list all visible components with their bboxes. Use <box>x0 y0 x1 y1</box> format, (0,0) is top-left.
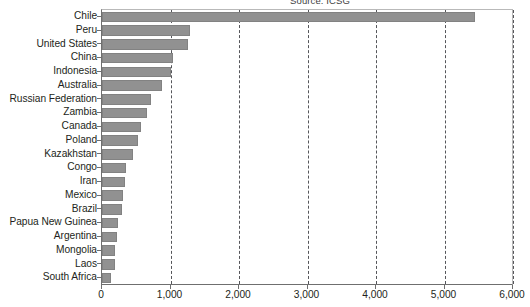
bar-row <box>102 148 512 162</box>
x-axis-tick <box>101 285 102 289</box>
y-axis-label-australia: Australia <box>0 78 97 92</box>
bar-australia <box>102 80 162 91</box>
bar-row <box>102 38 512 52</box>
y-axis-label-russian-federation: Russian Federation <box>0 92 97 106</box>
bar-chile <box>102 12 475 23</box>
bar-row <box>102 230 512 244</box>
bar-brazil <box>102 204 122 215</box>
y-axis-label-iran: Iran <box>0 174 97 188</box>
bar-row <box>102 189 512 203</box>
bar-poland <box>102 135 138 146</box>
bar-row <box>102 216 512 230</box>
y-axis-label-congo: Congo <box>0 160 97 174</box>
y-axis-label-papua-new-guinea: Papua New Guinea <box>0 215 97 229</box>
x-axis-label-5000: 5,000 <box>431 288 457 302</box>
x-axis-label-2000: 2,000 <box>225 288 251 302</box>
x-axis-tick <box>444 285 445 289</box>
bar-rows <box>102 10 512 284</box>
y-axis-label-indonesia: Indonesia <box>0 64 97 78</box>
x-axis-tick <box>375 285 376 289</box>
x-axis-label-0: 0 <box>98 288 104 302</box>
x-axis-tick <box>307 285 308 289</box>
y-axis-labels: ChilePeruUnited StatesChinaIndonesiaAust… <box>0 9 97 285</box>
x-axis-label-4000: 4,000 <box>362 288 388 302</box>
bar-row <box>102 203 512 217</box>
bar-row <box>102 79 512 93</box>
bar-china <box>102 53 173 64</box>
bar-chart: Source: ICSG ChilePeruUnited StatesChina… <box>0 0 530 307</box>
plot-area <box>101 9 513 285</box>
bar-mongolia <box>102 245 115 256</box>
y-axis-label-zambia: Zambia <box>0 105 97 119</box>
bar-row <box>102 65 512 79</box>
y-axis-label-south-africa: South Africa <box>0 270 97 284</box>
bar-congo <box>102 163 126 174</box>
bar-south-africa <box>102 273 111 284</box>
y-axis-label-kazakhstan: Kazakhstan <box>0 147 97 161</box>
bar-mexico <box>102 190 123 201</box>
bar-row <box>102 244 512 258</box>
y-axis-label-argentina: Argentina <box>0 229 97 243</box>
y-axis-label-china: China <box>0 50 97 64</box>
bar-row <box>102 120 512 134</box>
bar-zambia <box>102 108 147 119</box>
x-axis-label-6000: 6,000 <box>499 288 525 302</box>
bar-papua-new-guinea <box>102 218 118 229</box>
bar-laos <box>102 259 115 270</box>
bar-row <box>102 258 512 272</box>
x-axis-label-1000: 1,000 <box>157 288 183 302</box>
y-axis-label-chile: Chile <box>0 9 97 23</box>
y-axis-label-laos: Laos <box>0 257 97 271</box>
bar-argentina <box>102 232 117 243</box>
x-axis-tick <box>238 285 239 289</box>
y-axis-label-poland: Poland <box>0 133 97 147</box>
y-axis-label-united-states: United States <box>0 37 97 51</box>
bar-row <box>102 24 512 38</box>
x-axis-labels: 01,0002,0003,0004,0005,0006,000 <box>0 288 530 306</box>
bar-row <box>102 10 512 24</box>
gridline-6000 <box>513 10 514 284</box>
y-axis-label-brazil: Brazil <box>0 202 97 216</box>
x-axis-tick <box>512 285 513 289</box>
bar-row <box>102 175 512 189</box>
bar-peru <box>102 25 190 36</box>
bar-row <box>102 271 512 285</box>
y-axis-label-mongolia: Mongolia <box>0 243 97 257</box>
bar-row <box>102 93 512 107</box>
bar-kazakhstan <box>102 149 133 160</box>
bar-row <box>102 51 512 65</box>
y-axis-label-peru: Peru <box>0 23 97 37</box>
bar-row <box>102 106 512 120</box>
bar-russian-federation <box>102 94 151 105</box>
bar-canada <box>102 122 141 133</box>
bar-iran <box>102 177 125 188</box>
bar-united-states <box>102 39 188 50</box>
y-axis-label-canada: Canada <box>0 119 97 133</box>
x-axis-tick <box>170 285 171 289</box>
x-axis-label-3000: 3,000 <box>294 288 320 302</box>
y-axis-label-mexico: Mexico <box>0 188 97 202</box>
source-note: Source: ICSG <box>250 0 390 6</box>
bar-row <box>102 134 512 148</box>
bar-row <box>102 161 512 175</box>
bar-indonesia <box>102 67 171 78</box>
